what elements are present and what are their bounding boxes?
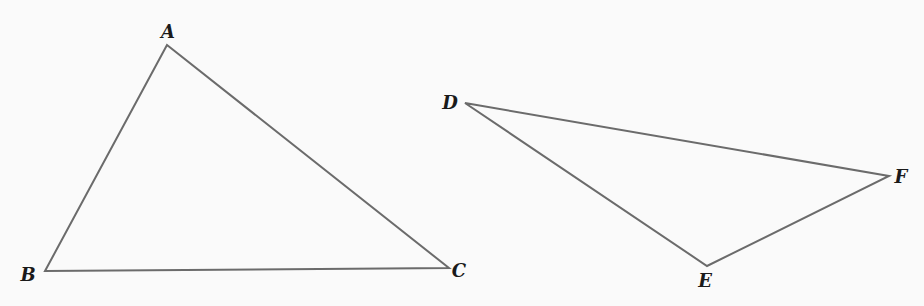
vertex-label-f: F (894, 166, 909, 187)
vertex-label-e: E (697, 270, 712, 291)
vertex-label-b: B (19, 264, 35, 285)
vertex-label-a: A (159, 21, 175, 42)
triangle-def (465, 103, 889, 266)
vertex-label-c: C (452, 260, 467, 281)
triangle-abc (45, 45, 449, 271)
vertex-label-d: D (441, 92, 458, 113)
geometry-diagram: A B C D E F (0, 0, 924, 306)
